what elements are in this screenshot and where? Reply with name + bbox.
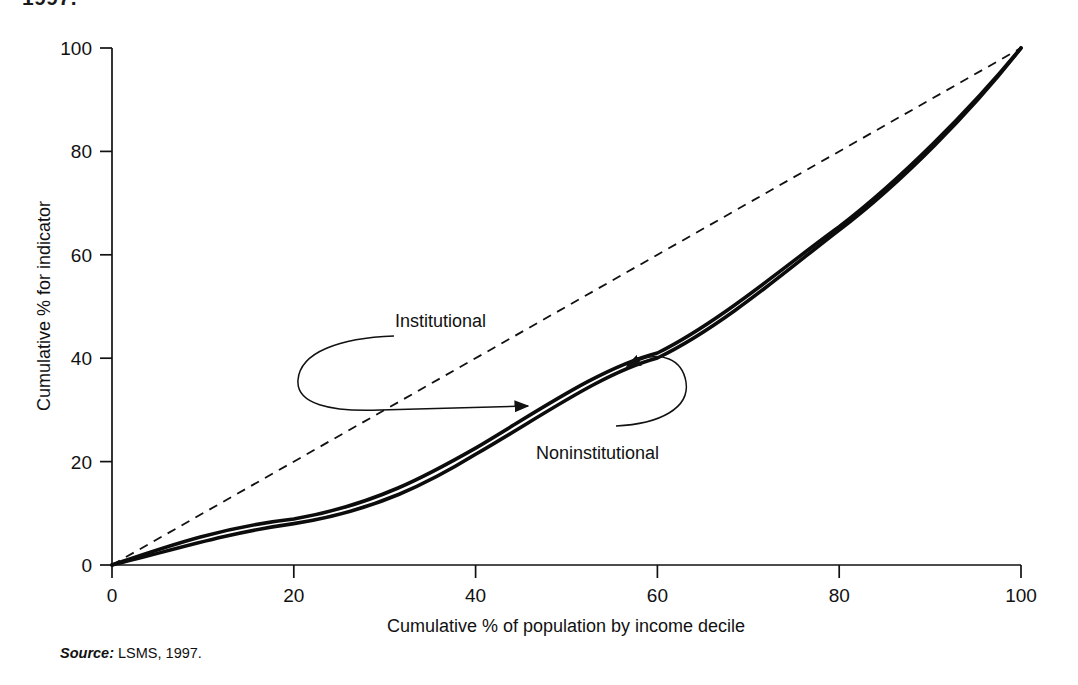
- line-of-equality: [112, 48, 1021, 565]
- y-axis-title: Cumulative % for indicator: [34, 201, 54, 411]
- clipped-caption-fragment: 1997.: [22, 0, 77, 10]
- x-tick-label: 0: [107, 585, 118, 606]
- x-axis-title: Cumulative % of population by income dec…: [387, 616, 745, 636]
- y-axis-ticks: [100, 48, 112, 565]
- lorenz-chart: 0 20 40 60 80 100 0 20 40 60 80 100 Cumu…: [0, 0, 1078, 640]
- x-tick-label: 100: [1005, 585, 1037, 606]
- y-tick-label: 60: [71, 245, 92, 266]
- x-tick-label: 80: [829, 585, 850, 606]
- lorenz-curve-figure: 1997. 0 20 40 60 80 100: [0, 0, 1078, 685]
- y-axis-tick-labels: 0 20 40 60 80 100: [60, 38, 92, 576]
- y-tick-label: 0: [81, 555, 92, 576]
- x-tick-label: 40: [465, 585, 486, 606]
- y-tick-label: 40: [71, 348, 92, 369]
- x-axis-tick-labels: 0 20 40 60 80 100: [107, 585, 1037, 606]
- source-label: Source:: [60, 645, 114, 661]
- source-text: LSMS, 1997.: [114, 645, 202, 661]
- y-tick-label: 100: [60, 38, 92, 59]
- annotation-label-noninstitutional: Noninstitutional: [536, 443, 659, 463]
- source-note: Source: LSMS, 1997.: [60, 645, 202, 661]
- x-axis-ticks: [112, 565, 1021, 578]
- y-tick-label: 80: [71, 141, 92, 162]
- x-tick-label: 20: [283, 585, 304, 606]
- y-tick-label: 20: [71, 452, 92, 473]
- x-tick-label: 60: [647, 585, 668, 606]
- annotation-label-institutional: Institutional: [395, 311, 486, 331]
